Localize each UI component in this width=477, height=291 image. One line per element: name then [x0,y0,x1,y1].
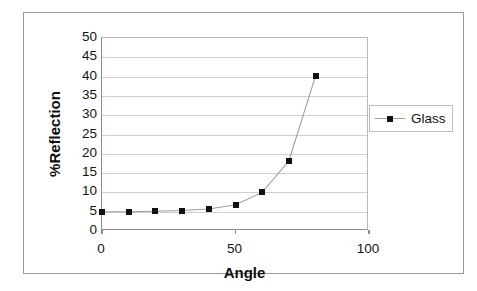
y-axis-tick-label: 45 [24,49,104,63]
legend-symbol-glass [375,113,405,125]
y-axis-tick-label: 20 [24,146,104,160]
x-axis-tick-mark [235,230,237,234]
x-axis-tick-mark [101,230,103,234]
data-point-marker [126,209,132,215]
y-axis-tick-label: 15 [24,165,104,179]
data-point-marker [259,189,265,195]
data-point-marker [233,202,239,208]
x-axis-tick-label: 0 [71,242,131,256]
plot-area [101,37,368,230]
chart-frame: %Reflection 05101520253035404550 050100 … [23,12,464,274]
y-axis-tick-label: 25 [24,127,104,141]
y-axis-tick-label: 5 [24,204,104,218]
y-axis-tick-label: 35 [24,88,104,102]
data-point-marker [206,206,212,212]
y-axis-tick-label: 40 [24,69,104,83]
x-axis-title: Angle [24,264,465,281]
y-axis-tick-label: 0 [24,223,104,237]
data-point-marker [313,73,319,79]
chart-screenshot: %Reflection 05101520253035404550 050100 … [0,0,477,291]
legend: Glass [369,105,453,132]
data-point-marker [286,158,292,164]
x-axis-tick-label: 100 [338,242,398,256]
y-axis-tick-label: 50 [24,30,104,44]
data-point-marker [179,208,185,214]
x-axis-tick-mark [368,230,370,234]
legend-label-glass: Glass [411,111,446,126]
data-point-marker [99,209,105,215]
legend-square-marker-icon [387,116,393,122]
y-axis-tick-label: 30 [24,107,104,121]
x-axis-tick-label: 50 [205,242,265,256]
data-point-marker [152,208,158,214]
y-axis-tick-label: 10 [24,184,104,198]
